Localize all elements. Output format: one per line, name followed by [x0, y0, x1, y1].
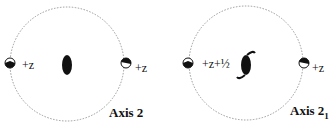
left-z-half-label: +z+½: [202, 58, 230, 70]
right-motif-icon: [299, 58, 309, 68]
title-text: Axis 2: [109, 105, 143, 120]
right-z-label: +z: [312, 62, 324, 74]
two-fold-axis-icon: [62, 55, 72, 75]
left-motif-icon: [183, 58, 193, 68]
right-motif-icon: [121, 58, 131, 68]
left-z-label: +z: [22, 59, 34, 71]
two-fold-screw-axis-icon: [237, 52, 255, 78]
symmetry-diagrams: [0, 0, 333, 127]
axis-2-title: Axis 2: [109, 105, 143, 121]
left-motif-icon: [5, 58, 15, 68]
axis-2-1-title: Axis 21: [290, 103, 329, 121]
title-subscript: 1: [324, 111, 329, 121]
title-text: Axis 2: [290, 103, 324, 118]
right-z-label: +z: [135, 62, 147, 74]
